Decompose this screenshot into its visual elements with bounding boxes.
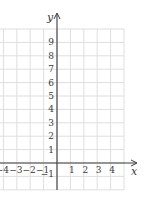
x-tick-label: −2 <box>23 165 36 175</box>
y-axis-label: y <box>46 11 54 24</box>
y-tick-label: 2 <box>48 131 54 141</box>
y-tick-label: 5 <box>48 91 54 101</box>
x-tick-label: −3 <box>9 165 23 175</box>
x-axis-label: x <box>131 165 138 178</box>
x-tick-label: 1 <box>69 165 75 175</box>
y-tick-label: 1 <box>48 145 54 155</box>
x-tick-label: 2 <box>82 165 88 175</box>
y-tick-labels: −1123456789 <box>41 37 55 179</box>
x-tick-label: 3 <box>96 165 102 175</box>
y-tick-label: 7 <box>48 64 54 74</box>
y-tick-label: 3 <box>48 118 54 128</box>
coordinate-plane: x y −4−3−2−11234 −1123456789 <box>0 0 162 203</box>
y-tick-label: 4 <box>48 104 54 114</box>
x-tick-label: 4 <box>109 165 115 175</box>
y-tick-label: 6 <box>48 78 54 88</box>
axes: x y <box>0 11 138 190</box>
x-tick-labels: −4−3−2−11234 <box>0 165 115 175</box>
x-tick-label: −4 <box>0 165 9 175</box>
y-tick-label: 8 <box>48 51 54 61</box>
y-tick-label: −1 <box>41 169 54 179</box>
y-tick-label: 9 <box>48 37 54 47</box>
